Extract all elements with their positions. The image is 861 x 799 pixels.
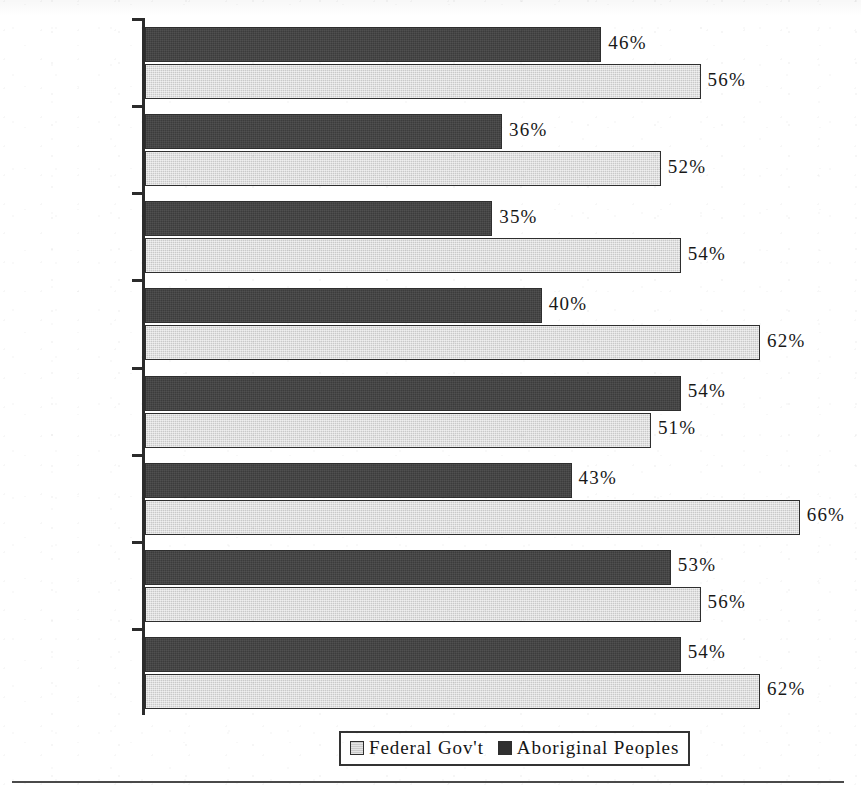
bar-value-label: 51% bbox=[658, 417, 696, 439]
bar-federal-govt bbox=[145, 587, 701, 622]
legend-label: Federal Gov't bbox=[369, 737, 484, 759]
axis-tick bbox=[132, 105, 143, 108]
bar-value-label: 46% bbox=[608, 32, 646, 54]
bar-value-label: 52% bbox=[668, 156, 706, 178]
bar-federal-govt bbox=[145, 64, 701, 99]
axis-tick bbox=[132, 367, 143, 370]
bar-value-label: 43% bbox=[579, 467, 617, 489]
bar-aboriginal-peoples bbox=[145, 376, 681, 411]
legend-entry-federal-govt: Federal Gov't bbox=[350, 737, 484, 759]
bar-federal-govt bbox=[145, 151, 661, 186]
bar-aboriginal-peoples bbox=[145, 463, 572, 498]
bar-federal-govt bbox=[145, 325, 760, 360]
bar-aboriginal-peoples bbox=[145, 637, 681, 672]
bar-value-label: 36% bbox=[509, 119, 547, 141]
bar-federal-govt bbox=[145, 500, 800, 535]
bar-value-label: 35% bbox=[499, 206, 537, 228]
bar-chart: Canada46%56%BC36%52%Alberta35%54%Sask/Ma… bbox=[0, 0, 861, 799]
bar-federal-govt bbox=[145, 238, 681, 273]
axis-tick bbox=[132, 628, 143, 631]
bar-aboriginal-peoples bbox=[145, 27, 601, 62]
bar-federal-govt bbox=[145, 674, 760, 709]
bar-value-label: 54% bbox=[688, 243, 726, 265]
legend-label: Aboriginal Peoples bbox=[517, 737, 679, 759]
axis-tick bbox=[132, 18, 143, 21]
axis-tick bbox=[132, 279, 143, 282]
bar-aboriginal-peoples bbox=[145, 288, 542, 323]
plot-area: Canada46%56%BC36%52%Alberta35%54%Sask/Ma… bbox=[142, 18, 847, 715]
bar-aboriginal-peoples bbox=[145, 201, 492, 236]
bar-value-label: 54% bbox=[688, 641, 726, 663]
chart-legend: Federal Gov'tAboriginal Peoples bbox=[339, 731, 690, 766]
bar-value-label: 53% bbox=[678, 554, 716, 576]
legend-swatch-icon bbox=[498, 741, 512, 755]
bar-federal-govt bbox=[145, 413, 651, 448]
bar-value-label: 56% bbox=[708, 591, 746, 613]
legend-swatch-icon bbox=[350, 741, 364, 755]
scan-artifact-top bbox=[0, 0, 861, 16]
bar-value-label: 66% bbox=[807, 504, 845, 526]
footer-divider-rule bbox=[12, 781, 844, 783]
bar-value-label: 40% bbox=[549, 293, 587, 315]
bar-value-label: 54% bbox=[688, 380, 726, 402]
bar-value-label: 62% bbox=[767, 330, 805, 352]
bar-aboriginal-peoples bbox=[145, 550, 671, 585]
bar-value-label: 62% bbox=[767, 678, 805, 700]
axis-tick bbox=[132, 454, 143, 457]
legend-entry-aboriginal-peoples: Aboriginal Peoples bbox=[498, 737, 679, 759]
bar-aboriginal-peoples bbox=[145, 114, 502, 149]
bar-value-label: 56% bbox=[708, 69, 746, 91]
axis-tick bbox=[132, 541, 143, 544]
axis-tick bbox=[132, 192, 143, 195]
